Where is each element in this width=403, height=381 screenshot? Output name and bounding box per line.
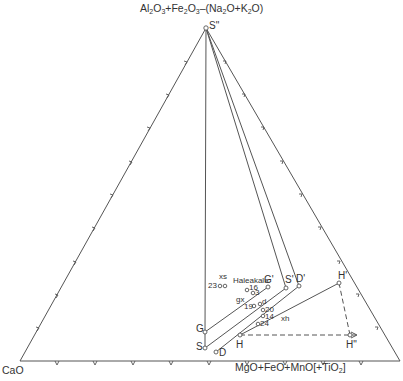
label-D: D — [219, 348, 226, 358]
label-xh: xh — [281, 315, 289, 323]
sample-23b — [223, 284, 227, 288]
label-19: 19 — [244, 303, 253, 311]
point-S1 — [284, 286, 288, 290]
point-D — [214, 350, 218, 354]
dashed-H1-H2 — [339, 283, 350, 335]
label-H2: H" — [346, 340, 357, 350]
ternary-triangle — [20, 28, 400, 361]
point-H — [238, 333, 242, 337]
point-S2 — [204, 26, 208, 30]
label-D1: D' — [296, 274, 305, 284]
point-H1 — [337, 281, 341, 285]
label-24: 24 — [260, 320, 269, 328]
point-D1 — [297, 284, 301, 288]
label-G: G — [196, 324, 204, 334]
label-S1: S' — [285, 275, 294, 285]
left-edge-ticks — [36, 61, 187, 331]
label-S2: S" — [209, 21, 219, 31]
line-apex-to-G — [205, 28, 206, 332]
label-3: 3 — [255, 289, 259, 297]
vertex-label-top: Al2O3+Fe2O3–(Na2O+K2O) — [140, 3, 263, 15]
line-apex-to-D1 — [206, 28, 299, 286]
label-23: 23 — [208, 282, 217, 290]
vertex-label-right: MgO+FeO+MnO[+TiO2] — [235, 362, 346, 374]
point-G1 — [266, 285, 270, 289]
label-H: H — [236, 340, 243, 350]
label-H1: H' — [338, 271, 347, 281]
point-H2 — [348, 333, 352, 337]
sample-23a — [218, 284, 222, 288]
label-xs: xs — [219, 273, 227, 281]
point-S — [203, 346, 207, 350]
line-apex-to-S1 — [206, 28, 286, 288]
label-S: S — [196, 342, 203, 352]
vertex-label-left: CaO — [2, 365, 24, 376]
